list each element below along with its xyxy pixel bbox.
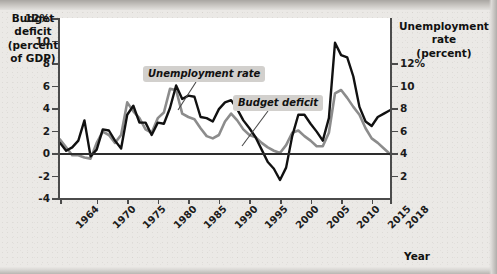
right-axis-tick-label: 12% xyxy=(400,58,425,69)
left-axis-tick-label: -2 xyxy=(8,171,50,182)
unemployment-rate-callout: Unemployment rate xyxy=(143,66,265,82)
x-axis-tick-label: 1985 xyxy=(202,204,229,231)
left-axis-tick-label: 12% xyxy=(8,13,50,24)
x-axis-tick xyxy=(97,198,99,204)
plot-area xyxy=(60,18,390,198)
right-axis-tick xyxy=(392,153,398,155)
x-axis-tick-label: 1980 xyxy=(172,204,199,231)
right-axis-title: Unemployment rate (percent) xyxy=(398,20,490,60)
x-axis-tick-label: 2005 xyxy=(325,204,352,231)
left-axis-tick-label: 2 xyxy=(8,126,50,137)
x-axis-tick-label: 1970 xyxy=(111,204,138,231)
series-paths xyxy=(60,18,390,198)
right-axis-tick-label: 10 xyxy=(400,81,415,92)
right-axis-tick xyxy=(392,176,398,178)
unemployment-rate-line xyxy=(60,89,390,159)
scan-edge-right xyxy=(489,0,497,274)
x-axis-title: Year xyxy=(404,250,430,262)
left-axis-tick-label: 4 xyxy=(8,103,50,114)
scan-band-bottom xyxy=(0,267,497,274)
left-axis-tick xyxy=(52,153,58,155)
x-axis-tick xyxy=(390,198,392,204)
zero-reference-line xyxy=(60,153,390,155)
left-axis-tick xyxy=(52,86,58,88)
left-axis-tick-label: 10 xyxy=(8,36,50,47)
x-axis-tick-label: 2010 xyxy=(355,204,382,231)
right-axis-tick-label: 2 xyxy=(400,171,407,182)
left-axis-tick-label: 6 xyxy=(8,81,50,92)
left-axis-tick-label: 0 xyxy=(8,148,50,159)
x-axis-tick xyxy=(60,198,62,204)
right-axis-title-line1: Unemployment xyxy=(398,20,490,33)
left-axis-tick xyxy=(52,198,58,200)
right-axis-title-line2: rate xyxy=(398,33,490,46)
left-axis-tick-label: 8 xyxy=(8,58,50,69)
right-axis-tick-label: 4 xyxy=(400,148,407,159)
x-axis-tick-label: 2000 xyxy=(294,204,321,231)
left-axis-tick xyxy=(52,176,58,178)
budget-deficit-callout: Budget deficit xyxy=(233,95,323,111)
budget-deficit-line xyxy=(60,43,390,180)
figure-container: Budget deficit (percent of GDP) Unemploy… xyxy=(0,0,497,274)
x-axis-tick-label: 1995 xyxy=(264,204,291,231)
right-axis-tick-label: 8 xyxy=(400,103,407,114)
right-axis-tick-label: 6 xyxy=(400,126,407,137)
x-axis-tick-label: 1964 xyxy=(74,204,101,231)
right-axis-tick xyxy=(392,63,398,65)
scan-band-top xyxy=(0,0,497,10)
right-axis-tick xyxy=(392,131,398,133)
right-axis-tick xyxy=(392,86,398,88)
x-axis-tick-label: 1975 xyxy=(141,204,168,231)
x-axis-tick-label: 1990 xyxy=(233,204,260,231)
left-axis-tick xyxy=(52,108,58,110)
left-axis-tick xyxy=(52,131,58,133)
left-axis-tick-label: -4 xyxy=(8,193,50,204)
right-axis-tick xyxy=(392,108,398,110)
